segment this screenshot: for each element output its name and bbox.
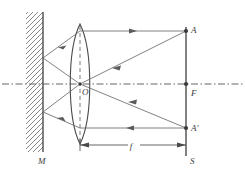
ray-arrow-A-through-center xyxy=(112,66,121,71)
ray-arrow-top-horizontal xyxy=(129,29,137,34)
optics-diagram-canvas: A F A' S O M f xyxy=(0,0,246,169)
ray-arrow-bottom-horizontal xyxy=(126,126,134,131)
point-marker-A-prime xyxy=(184,126,188,130)
label-S: S xyxy=(190,156,195,166)
point-marker-O xyxy=(78,82,81,85)
ray-arrow-mirror-lower xyxy=(57,117,66,122)
dimension-arrow-right xyxy=(177,142,186,147)
point-marker-A xyxy=(184,29,188,33)
optics-figure: A F A' S O M f xyxy=(0,0,246,169)
ray-lens-to-mirror-upper xyxy=(43,31,80,58)
label-O: O xyxy=(82,87,89,97)
ray-mirror-to-lens-center xyxy=(43,58,80,84)
ray-A-through-center xyxy=(80,31,186,84)
label-M: M xyxy=(37,156,46,166)
mirror-hatch-fill xyxy=(26,12,43,152)
ray-arrow-Aprime-center xyxy=(128,100,137,105)
label-A: A xyxy=(190,25,197,35)
label-A-prime: A' xyxy=(190,123,199,133)
ray-center-to-mirror-lower xyxy=(43,84,80,112)
ray-Aprime-through-center-upper xyxy=(80,84,186,128)
dimension-arrow-left xyxy=(80,142,89,147)
ray-mirror-lower-to-lens-bottom xyxy=(43,112,80,128)
label-F: F xyxy=(190,88,197,98)
point-marker-F xyxy=(184,82,188,86)
